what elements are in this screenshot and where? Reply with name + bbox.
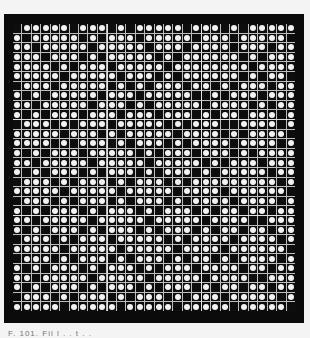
- filled-cell: [136, 283, 144, 292]
- open-cell: [277, 274, 285, 283]
- open-cell: [79, 293, 87, 302]
- open-cell: [22, 43, 30, 52]
- open-cell: [155, 235, 163, 244]
- open-cell: [88, 168, 96, 177]
- open-cell: [277, 34, 285, 43]
- open-cell: [88, 254, 96, 263]
- open-cell: [41, 187, 49, 196]
- open-cell: [287, 149, 295, 158]
- filled-cell: [230, 139, 238, 148]
- open-cell: [211, 34, 219, 43]
- open-cell: [13, 34, 21, 43]
- open-cell: [60, 274, 68, 283]
- open-cell: [249, 34, 257, 43]
- open-cell: [287, 24, 295, 33]
- open-cell: [249, 302, 257, 311]
- open-cell: [155, 187, 163, 196]
- filled-cell: [107, 82, 115, 91]
- filled-cell: [230, 302, 238, 311]
- open-cell: [155, 130, 163, 139]
- filled-cell: [22, 91, 30, 100]
- open-cell: [268, 274, 276, 283]
- open-cell: [268, 254, 276, 263]
- open-cell: [32, 168, 40, 177]
- open-cell: [32, 293, 40, 302]
- filled-cell: [164, 62, 172, 71]
- open-cell: [98, 197, 106, 206]
- open-cell: [22, 187, 30, 196]
- open-cell: [155, 91, 163, 100]
- open-cell: [51, 274, 59, 283]
- open-cell: [60, 101, 68, 110]
- filled-cell: [211, 283, 219, 292]
- filled-cell: [79, 34, 87, 43]
- filled-cell: [230, 149, 238, 158]
- open-cell: [268, 34, 276, 43]
- open-cell: [239, 187, 247, 196]
- open-cell: [51, 24, 59, 33]
- open-cell: [41, 34, 49, 43]
- open-cell: [202, 62, 210, 71]
- open-cell: [155, 293, 163, 302]
- filled-cell: [79, 53, 87, 62]
- open-cell: [136, 254, 144, 263]
- open-cell: [88, 53, 96, 62]
- filled-cell: [98, 91, 106, 100]
- open-cell: [183, 274, 191, 283]
- open-cell: [32, 72, 40, 81]
- open-cell: [258, 82, 266, 91]
- open-cell: [155, 24, 163, 33]
- open-cell: [51, 72, 59, 81]
- open-cell: [117, 120, 125, 129]
- filled-cell: [183, 24, 191, 33]
- open-cell: [107, 53, 115, 62]
- open-cell: [287, 53, 295, 62]
- open-cell: [88, 82, 96, 91]
- filled-cell: [22, 264, 30, 273]
- open-cell: [70, 34, 78, 43]
- filled-cell: [51, 120, 59, 129]
- open-cell: [51, 110, 59, 119]
- open-cell: [117, 149, 125, 158]
- open-cell: [88, 34, 96, 43]
- open-cell: [164, 264, 172, 273]
- open-cell: [98, 178, 106, 187]
- open-cell: [22, 158, 30, 167]
- open-cell: [136, 158, 144, 167]
- filled-cell: [249, 149, 257, 158]
- open-cell: [41, 62, 49, 71]
- open-cell: [41, 43, 49, 52]
- filled-cell: [107, 178, 115, 187]
- open-cell: [145, 24, 153, 33]
- open-cell: [51, 130, 59, 139]
- filled-cell: [221, 120, 229, 129]
- open-cell: [221, 178, 229, 187]
- filled-cell: [98, 264, 106, 273]
- filled-cell: [192, 149, 200, 158]
- open-cell: [51, 168, 59, 177]
- open-cell: [192, 82, 200, 91]
- open-cell: [126, 302, 134, 311]
- open-cell: [221, 254, 229, 263]
- filled-cell: [51, 197, 59, 206]
- open-cell: [98, 139, 106, 148]
- open-cell: [32, 187, 40, 196]
- open-cell: [164, 206, 172, 215]
- open-cell: [249, 245, 257, 254]
- open-cell: [268, 139, 276, 148]
- filled-cell: [155, 149, 163, 158]
- filled-cell: [202, 101, 210, 110]
- open-cell: [202, 197, 210, 206]
- open-cell: [155, 178, 163, 187]
- open-cell: [239, 149, 247, 158]
- filled-cell: [258, 274, 266, 283]
- open-cell: [136, 24, 144, 33]
- open-cell: [277, 216, 285, 225]
- open-cell: [230, 226, 238, 235]
- open-cell: [70, 101, 78, 110]
- open-cell: [230, 245, 238, 254]
- filled-cell: [117, 130, 125, 139]
- open-cell: [145, 110, 153, 119]
- open-cell: [117, 34, 125, 43]
- filled-cell: [70, 120, 78, 129]
